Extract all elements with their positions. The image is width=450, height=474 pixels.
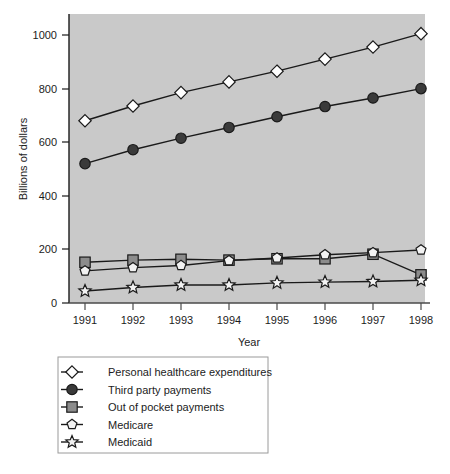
x-tick-label: 1993 — [169, 314, 193, 326]
circle-icon — [67, 384, 77, 394]
data-point-marker — [416, 83, 426, 93]
y-tick-label: 200 — [39, 243, 57, 255]
data-point-marker — [224, 122, 234, 132]
legend-item-label: Medicaid — [108, 436, 152, 448]
x-tick-label: 1998 — [409, 314, 433, 326]
y-tick-label: 1000 — [33, 29, 57, 41]
x-axis-title: Year — [238, 336, 261, 348]
x-tick-label: 1994 — [217, 314, 241, 326]
x-tick-label: 1997 — [361, 314, 385, 326]
legend-item-label: Third party payments — [108, 384, 212, 396]
legend-item-label: Medicare — [108, 419, 153, 431]
data-point-marker — [272, 112, 282, 122]
y-tick-label: 0 — [51, 297, 57, 309]
figure-container: 1000 800 600 400 200 0 Billions of dolla… — [0, 0, 450, 474]
x-tick-label: 1992 — [121, 314, 145, 326]
legend-item-label: Out of pocket payments — [108, 401, 225, 413]
y-tick-label: 400 — [39, 190, 57, 202]
data-point-marker — [80, 158, 90, 168]
x-tick-label: 1996 — [313, 314, 337, 326]
data-point-marker — [320, 101, 330, 111]
data-point-marker — [176, 133, 186, 143]
square-icon — [67, 402, 77, 412]
x-tick-label: 1995 — [265, 314, 289, 326]
y-axis-title: Billions of dollars — [17, 117, 29, 200]
data-point-marker — [128, 145, 138, 155]
data-point-marker — [368, 93, 378, 103]
y-tick-label: 600 — [39, 136, 57, 148]
x-tick-label: 1991 — [73, 314, 97, 326]
line-chart: 1000 800 600 400 200 0 Billions of dolla… — [0, 0, 450, 474]
y-tick-label: 800 — [39, 83, 57, 95]
legend-item-label: Personal healthcare expenditures — [108, 366, 272, 378]
